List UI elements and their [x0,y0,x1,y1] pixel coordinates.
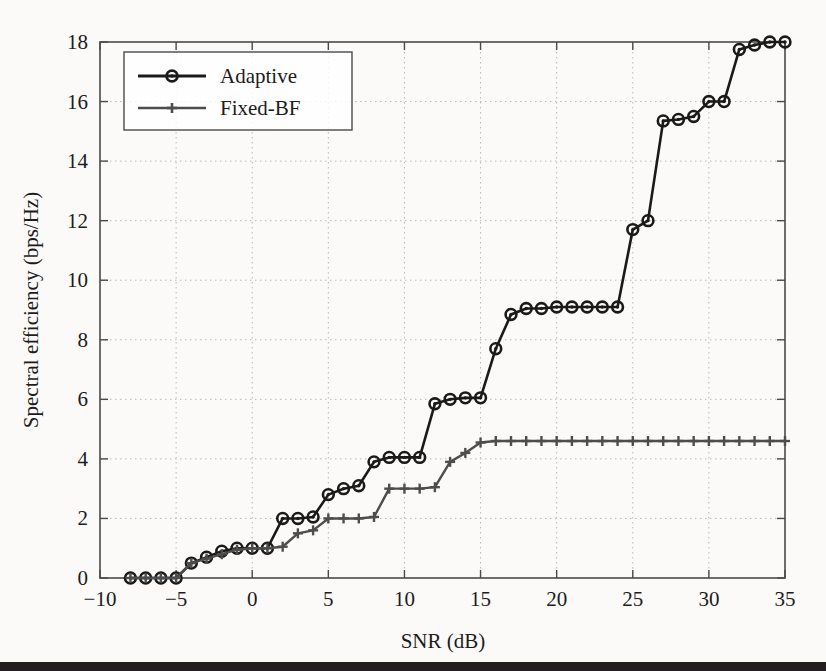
marker-circle-core [601,305,604,308]
marker-circle-core [311,515,314,518]
marker-circle-core [296,517,299,520]
marker-circle-core [388,456,391,459]
figure-container: −10−505101520253035024681012141618 SNR (… [0,0,826,671]
series-line [130,441,785,578]
marker-circle-core [433,402,436,405]
x-tick-label: 0 [247,587,258,611]
marker-circle-core [768,40,771,43]
x-tick-label: 10 [394,587,415,611]
marker-circle-core [327,493,330,496]
marker-circle-core [555,305,558,308]
marker-circle-core [753,43,756,46]
x-tick-label: 30 [698,587,719,611]
y-tick-label: 14 [67,149,89,173]
x-tick-label: 15 [470,587,491,611]
legend-label: Adaptive [220,64,297,88]
y-axis-title: Spectral efficiency (bps/Hz) [19,192,43,428]
marker-circle-core [585,305,588,308]
spectral-efficiency-chart: −10−505101520253035024681012141618 SNR (… [0,0,826,671]
marker-circle-core [738,48,741,51]
marker-circle-core [509,313,512,316]
legend-marker-circle-core [170,74,173,77]
y-tick-label: 0 [78,566,89,590]
marker-circle-core [570,305,573,308]
marker-circle-core [692,115,695,118]
y-tick-label: 2 [78,506,89,530]
series-fixed-bf [125,436,790,583]
x-tick-label: 20 [546,587,567,611]
marker-circle-core [525,307,528,310]
marker-circle-core [464,396,467,399]
x-tick-label: 25 [622,587,643,611]
x-tick-label: −10 [84,587,117,611]
marker-circle-core [357,484,360,487]
marker-circle-core [662,119,665,122]
x-axis-title: SNR (dB) [401,629,486,653]
y-tick-label: 12 [67,209,88,233]
marker-circle-core [342,487,345,490]
y-tick-label: 16 [67,90,88,114]
marker-circle-core [403,456,406,459]
marker-circle-core [783,40,786,43]
marker-circle-core [494,347,497,350]
y-tick-label: 8 [78,328,89,352]
x-tick-label: −5 [165,587,187,611]
marker-circle-core [372,460,375,463]
marker-circle-core [479,396,482,399]
x-tick-label: 35 [775,587,796,611]
marker-circle-core [646,219,649,222]
marker-circle-core [616,305,619,308]
marker-circle-core [448,398,451,401]
y-tick-label: 6 [78,387,89,411]
marker-circle-core [631,228,634,231]
y-tick-label: 4 [78,447,89,471]
y-tick-label: 18 [67,30,88,54]
legend-label: Fixed-BF [220,96,301,120]
marker-circle-core [540,307,543,310]
page-bottom-band [0,662,826,671]
marker-circle-core [677,118,680,121]
marker-circle-core [722,100,725,103]
chart-legend: AdaptiveFixed-BF [124,52,352,130]
marker-circle-core [707,100,710,103]
y-tick-label: 10 [67,268,88,292]
x-tick-label: 5 [323,587,334,611]
marker-circle-core [418,456,421,459]
marker-circle-core [281,517,284,520]
